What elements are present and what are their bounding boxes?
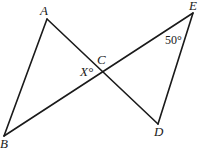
- angle-label-e: 50°: [165, 33, 182, 47]
- segment-ed: [158, 13, 193, 124]
- point-label-d: D: [153, 124, 164, 139]
- point-label-e: E: [188, 0, 197, 13]
- angle-label-x: X°: [79, 64, 93, 79]
- point-label-b: B: [0, 136, 8, 149]
- segment-be: [4, 13, 193, 136]
- point-label-a: A: [39, 3, 48, 18]
- segment-ab: [4, 19, 47, 136]
- point-label-c: C: [97, 52, 106, 67]
- geometry-diagram: A C E D B X° 50°: [0, 0, 200, 149]
